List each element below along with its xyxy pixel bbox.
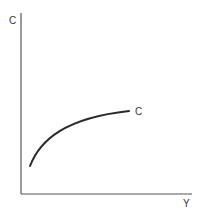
- consumption-curve: [30, 111, 129, 166]
- y-axis-label: C: [9, 15, 16, 26]
- curve-label: C: [135, 106, 142, 117]
- x-axis-label: Y: [183, 198, 190, 209]
- consumption-diagram: C Y C: [0, 0, 202, 217]
